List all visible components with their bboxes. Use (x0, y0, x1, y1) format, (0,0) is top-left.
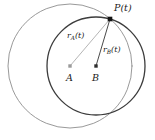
radius-segment-a (70, 19, 110, 66)
diagram-canvas (0, 0, 155, 140)
radius-b-label-argument: (t) (111, 45, 120, 54)
center-b-label: B (92, 73, 99, 83)
radius-a-label-argument: (t) (75, 31, 84, 40)
radius-segment-b (96, 19, 110, 66)
point-p-label: P(t) (114, 3, 132, 13)
center-b-marker (94, 64, 97, 67)
center-a-marker (68, 64, 71, 67)
center-a-label: A (66, 73, 73, 83)
radius-a-label: rA(t) (67, 32, 84, 41)
diagram-figure: P(t) rA(t) rB(t) A B (0, 0, 155, 140)
radius-b-label: rB(t) (103, 46, 121, 55)
point-p-marker (108, 17, 113, 22)
